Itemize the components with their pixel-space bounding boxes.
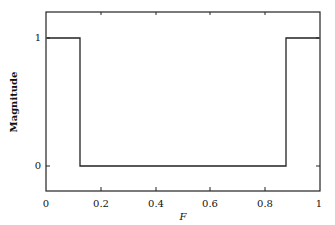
- series-line: [47, 38, 319, 166]
- x-tick-label: 0.2: [93, 198, 109, 209]
- x-tick-label: 0: [43, 198, 49, 209]
- x-tick-label: 1: [316, 198, 322, 209]
- y-tick-label: 1: [35, 32, 41, 43]
- y-axis-label: Magnitude: [8, 72, 19, 133]
- y-tick-label: 0: [35, 160, 41, 171]
- plot-frame: [46, 12, 320, 191]
- y-ticks: [46, 38, 320, 166]
- x-tick-label: 0.8: [257, 198, 273, 209]
- x-axis-label: F: [179, 211, 188, 222]
- x-ticks: [101, 12, 265, 191]
- x-tick-label: 0.6: [202, 198, 218, 209]
- chart: 0 0.2 0.4 0.6 0.8 1 0 1 F Magnitude: [0, 0, 335, 225]
- x-tick-label: 0.4: [148, 198, 164, 209]
